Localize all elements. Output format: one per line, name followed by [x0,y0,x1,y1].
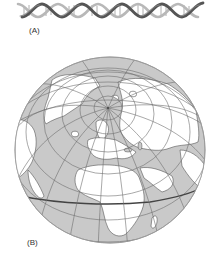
globe-illustration [0,50,219,245]
dna-double-helix-illustration [0,0,219,22]
north-pole-marker [107,107,109,109]
panel-label-b: (B) [27,238,38,247]
panel-label-a: (A) [29,26,40,35]
